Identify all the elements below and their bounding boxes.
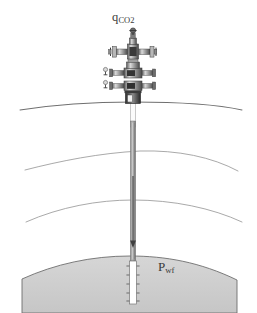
bottomhole-pressure-subscript: wf [165, 265, 174, 275]
co2-injection-well-diagram: qCO2 Pwf [0, 0, 257, 313]
tree-connector-spool [127, 58, 140, 69]
bottomhole-pressure-label: Pwf [158, 260, 175, 275]
cross-flow-tee [109, 44, 157, 59]
injection-rate-label: qCO2 [112, 11, 135, 25]
well-schematic-svg [0, 0, 257, 313]
casing-head-spool [125, 91, 142, 104]
upper-master-stem [130, 34, 137, 45]
master-valve-lower [103, 80, 155, 90]
swab-valve-cap [129, 28, 136, 35]
injection-rate-subscript-number: 2 [130, 15, 134, 25]
wellhead-christmas-tree [103, 28, 156, 104]
master-valve-upper [103, 67, 155, 78]
injection-rate-subscript: CO [118, 15, 130, 25]
